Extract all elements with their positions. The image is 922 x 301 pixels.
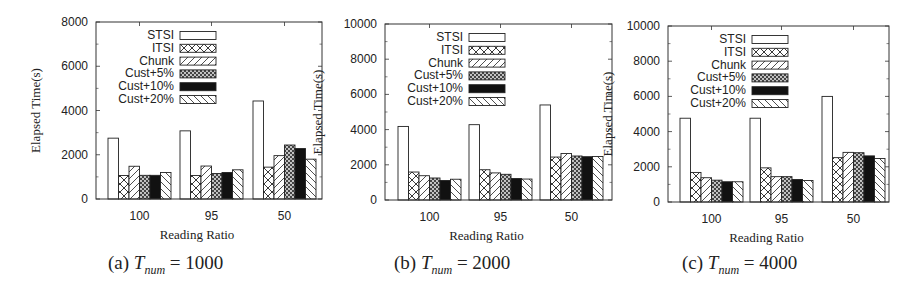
bar-cust10-95 xyxy=(511,179,522,200)
bar-chunk-95 xyxy=(201,166,212,199)
bar-cust5-95 xyxy=(782,177,793,202)
legend-swatch xyxy=(469,85,505,93)
legend-swatch xyxy=(180,96,216,104)
bar-cust10-50 xyxy=(864,156,875,202)
y-tick-label: 6000 xyxy=(633,89,660,103)
bar-itsi-50 xyxy=(833,158,844,202)
bar-chunk-100 xyxy=(701,178,712,202)
y-tick-label: 4000 xyxy=(61,104,88,118)
y-tick-label: 8000 xyxy=(350,52,377,66)
chart-a: 100955002000400060008000Reading RatioEla… xyxy=(28,15,322,242)
y-tick-label: 2000 xyxy=(350,158,377,172)
bar-cust5-95 xyxy=(501,174,512,200)
x-tick-label: 95 xyxy=(205,209,219,223)
bar-chunk-100 xyxy=(419,176,430,200)
caption-a-sub: num xyxy=(144,263,165,277)
caption-c-eq: = 4000 xyxy=(744,252,797,273)
legend-label: Cust+20% xyxy=(407,94,463,108)
bar-cust20-50 xyxy=(306,159,317,199)
legend-swatch xyxy=(752,61,788,69)
bar-cust20-50 xyxy=(875,159,886,202)
y-tick-label: 8000 xyxy=(633,54,660,68)
bar-stsi-50 xyxy=(822,96,833,202)
y-axis-label: Elapsed Time(s) xyxy=(600,72,615,157)
bar-cust10-95 xyxy=(222,172,233,199)
x-axis-label: Reading Ratio xyxy=(729,230,804,245)
caption-c-var: T xyxy=(708,252,719,273)
y-tick-label: 6000 xyxy=(61,59,88,73)
caption-c-label: (c) xyxy=(682,252,703,273)
x-axis-label: Reading Ratio xyxy=(160,227,235,242)
caption-b-var: T xyxy=(421,252,432,273)
legend-swatch xyxy=(180,83,216,91)
bar-stsi-50 xyxy=(253,101,264,199)
bar-itsi-95 xyxy=(761,168,772,202)
bar-stsi-95 xyxy=(469,125,480,200)
y-tick-label: 0 xyxy=(370,193,377,207)
x-axis-label: Reading Ratio xyxy=(449,228,524,243)
bar-chunk-50 xyxy=(561,154,572,200)
bar-cust20-95 xyxy=(803,181,814,202)
bar-cust10-100 xyxy=(440,180,451,200)
legend-swatch xyxy=(752,74,788,82)
legend-swatch xyxy=(752,87,788,95)
bar-cust5-100 xyxy=(712,180,723,202)
bar-stsi-95 xyxy=(180,131,191,199)
legend: STSIITSIChunkCust+5%Cust+10%Cust+20% xyxy=(118,28,216,106)
bar-cust20-50 xyxy=(593,157,604,200)
bar-cust10-50 xyxy=(582,157,593,200)
y-tick-label: 10000 xyxy=(627,19,661,33)
caption-a-label: (a) xyxy=(108,252,129,273)
caption-b-sub: num xyxy=(431,263,452,277)
bar-itsi-100 xyxy=(691,172,702,202)
legend-swatch xyxy=(469,72,505,80)
x-tick-label: 50 xyxy=(278,209,292,223)
bar-cust10-50 xyxy=(295,149,306,199)
legend-swatch xyxy=(469,34,505,42)
legend-swatch xyxy=(469,59,505,67)
bar-itsi-100 xyxy=(409,172,420,200)
caption-b-label: (b) xyxy=(394,252,416,273)
bar-cust10-100 xyxy=(150,175,161,199)
chart-c: 10095500200040006000800010000Reading Rat… xyxy=(600,19,889,245)
bar-stsi-100 xyxy=(398,126,409,200)
caption-a-eq: = 1000 xyxy=(170,252,223,273)
caption-c: (c) Tnum = 4000 xyxy=(682,252,797,278)
bar-stsi-100 xyxy=(680,118,691,202)
y-tick-label: 4000 xyxy=(633,125,660,139)
legend: STSIITSIChunkCust+5%Cust+10%Cust+20% xyxy=(690,32,788,110)
bar-stsi-50 xyxy=(540,105,551,200)
y-axis-label: Elapsed Time(s) xyxy=(28,68,43,153)
bar-cust20-95 xyxy=(233,170,244,199)
caption-a-var: T xyxy=(134,252,145,273)
bar-cust10-95 xyxy=(792,179,803,202)
chart-b: 10095500200040006000800010000Reading Rat… xyxy=(310,17,612,243)
x-tick-label: 100 xyxy=(419,210,439,224)
x-tick-label: 100 xyxy=(701,212,721,226)
legend-swatch xyxy=(752,100,788,108)
bar-cust5-50 xyxy=(854,153,865,202)
legend: STSIITSIChunkCust+5%Cust+10%Cust+20% xyxy=(407,30,505,108)
bar-chunk-50 xyxy=(843,152,854,202)
bar-stsi-100 xyxy=(108,138,119,199)
legend-label: Cust+20% xyxy=(690,96,746,110)
caption-a: (a) Tnum = 1000 xyxy=(108,252,223,278)
x-tick-label: 100 xyxy=(129,209,149,223)
y-tick-label: 10000 xyxy=(344,17,378,31)
y-tick-label: 4000 xyxy=(350,123,377,137)
legend-swatch xyxy=(180,57,216,65)
bar-cust5-95 xyxy=(212,174,223,199)
caption-b-eq: = 2000 xyxy=(457,252,510,273)
bar-itsi-100 xyxy=(119,176,130,199)
bar-itsi-50 xyxy=(264,167,275,199)
bar-cust5-100 xyxy=(430,178,441,200)
bar-itsi-95 xyxy=(191,176,202,199)
bar-chunk-95 xyxy=(490,173,501,200)
x-tick-label: 50 xyxy=(847,212,861,226)
bar-chunk-100 xyxy=(129,166,140,199)
y-tick-label: 6000 xyxy=(350,87,377,101)
legend-swatch xyxy=(469,46,505,54)
y-tick-label: 0 xyxy=(653,195,660,209)
x-tick-label: 95 xyxy=(775,212,789,226)
bar-cust20-100 xyxy=(161,172,172,199)
